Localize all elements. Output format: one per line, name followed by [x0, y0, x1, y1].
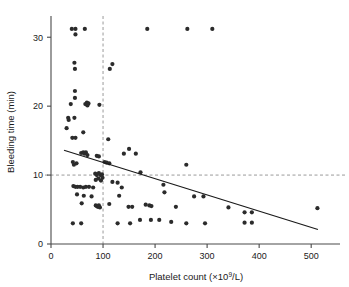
data-point — [67, 118, 71, 122]
data-point — [120, 185, 124, 189]
data-point — [185, 27, 189, 31]
data-point — [184, 221, 188, 225]
data-point — [79, 221, 83, 225]
data-point — [192, 194, 196, 198]
x-tick-label: 400 — [252, 251, 267, 261]
data-point — [134, 152, 138, 156]
x-tick-label: 0 — [48, 251, 53, 261]
data-point — [144, 203, 148, 207]
data-point — [91, 185, 95, 189]
x-tick-label: 200 — [148, 251, 163, 261]
y-tick-label: 30 — [33, 33, 43, 43]
data-point — [315, 206, 319, 210]
data-point — [110, 62, 114, 66]
data-point — [108, 67, 112, 71]
y-tick-label: 20 — [33, 101, 43, 111]
data-point — [117, 194, 121, 198]
data-point — [97, 154, 101, 158]
data-point — [89, 194, 93, 198]
y-axis-title: Bleeding time (min) — [5, 91, 16, 173]
data-point — [73, 96, 77, 100]
data-point — [116, 221, 120, 225]
data-point — [65, 126, 69, 130]
data-point — [250, 210, 254, 214]
data-point — [97, 103, 101, 107]
x-axis-title: Platelet count (×109/L) — [149, 271, 243, 283]
data-point — [98, 205, 102, 209]
data-point — [106, 137, 110, 141]
data-point — [210, 27, 214, 31]
data-point — [201, 194, 205, 198]
scatter-plot-figure: 0102030 0100200300400500 Bleeding time (… — [0, 0, 349, 287]
data-point — [83, 27, 87, 31]
data-point — [184, 163, 188, 167]
data-point — [149, 218, 153, 222]
data-point — [138, 218, 142, 222]
data-point — [226, 205, 230, 209]
data-point — [73, 67, 77, 71]
data-point — [122, 152, 126, 156]
data-point — [162, 190, 166, 194]
data-point — [174, 205, 178, 209]
data-point — [169, 220, 173, 224]
data-point — [130, 205, 134, 209]
data-point — [250, 221, 254, 225]
data-point — [242, 210, 246, 214]
data-point — [73, 27, 77, 31]
data-point — [82, 194, 86, 198]
data-point — [126, 205, 130, 209]
data-point — [72, 163, 76, 167]
data-point — [71, 221, 75, 225]
data-point — [73, 136, 77, 140]
data-point — [149, 204, 153, 208]
data-point — [72, 61, 76, 65]
data-point — [99, 178, 103, 182]
data-point — [75, 192, 79, 196]
x-tick-label: 100 — [96, 251, 111, 261]
x-axis-title-before: Platelet count (×10 — [149, 271, 228, 282]
data-point — [73, 32, 77, 36]
data-point — [145, 27, 149, 31]
data-point — [87, 185, 91, 189]
data-point — [72, 116, 76, 120]
y-axis-ticks: 0102030 — [33, 33, 51, 250]
data-point — [80, 201, 84, 205]
regression-line — [64, 150, 318, 229]
y-tick-label: 0 — [38, 239, 43, 249]
data-point — [127, 147, 131, 151]
data-point — [70, 27, 74, 31]
data-point — [157, 218, 161, 222]
data-point — [128, 221, 132, 225]
data-point — [94, 178, 98, 182]
data-point — [69, 102, 73, 106]
data-point — [116, 181, 120, 185]
data-point — [203, 221, 207, 225]
y-tick-label: 10 — [33, 170, 43, 180]
reference-lines-group — [45, 16, 346, 244]
data-point — [242, 221, 246, 225]
x-tick-label: 300 — [200, 251, 215, 261]
x-axis-title-after: /L) — [232, 271, 243, 282]
data-point — [107, 202, 111, 206]
data-point — [86, 101, 90, 105]
data-point — [73, 89, 77, 93]
data-point — [110, 180, 114, 184]
data-point — [81, 130, 85, 134]
data-point — [161, 183, 165, 187]
x-axis-ticks: 0100200300400500 — [48, 244, 318, 261]
chart-canvas: 0102030 0100200300400500 Bleeding time (… — [0, 0, 349, 287]
x-tick-label: 500 — [304, 251, 319, 261]
